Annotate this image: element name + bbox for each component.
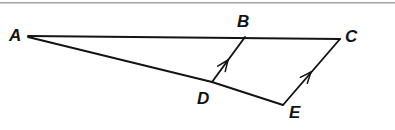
vertex-label-d: D: [197, 90, 209, 107]
vertex-label-e: E: [289, 104, 300, 121]
segment-group: [28, 36, 340, 105]
geometry-figure: A B C D E: [0, 0, 395, 130]
segment-a-c: [28, 36, 340, 39]
diagram-canvas: [0, 0, 395, 130]
segment-d-e: [212, 82, 283, 105]
segment-a-d: [28, 37, 212, 82]
vertex-label-a: A: [9, 27, 21, 44]
vertex-label-c: C: [345, 28, 357, 45]
parallel-mark-group: [218, 57, 315, 83]
vertex-label-b: B: [237, 13, 249, 30]
